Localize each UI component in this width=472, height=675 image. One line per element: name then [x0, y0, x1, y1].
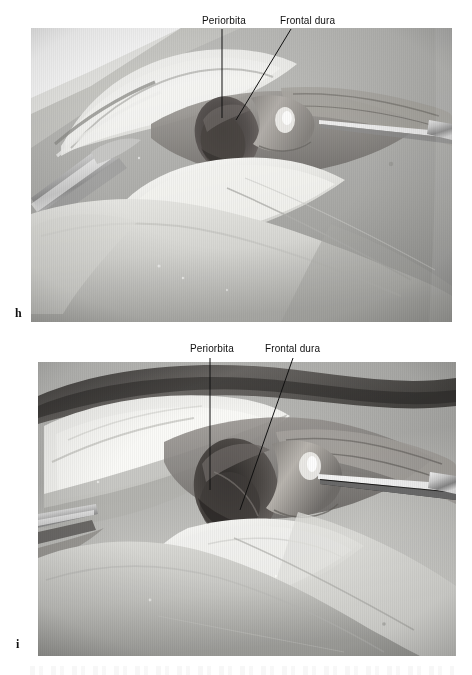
annotation-label-frontal-dura-h: Frontal dura: [280, 15, 335, 26]
panel-letter-i: i: [16, 638, 19, 650]
panel-h-vignette: [31, 28, 452, 322]
panel-i-photograph: [38, 362, 456, 656]
caption-remnant: [30, 666, 454, 675]
figure-panel-h: Periorbita Frontal dura h: [0, 0, 472, 335]
annotation-label-periorbita-h: Periorbita: [202, 15, 246, 26]
panel-letter-h: h: [15, 307, 22, 319]
panel-h-photograph: [31, 28, 452, 322]
annotation-label-periorbita-i: Periorbita: [190, 343, 234, 354]
figure-panel-i: Periorbita Frontal dura i: [0, 335, 472, 674]
annotation-label-frontal-dura-i: Frontal dura: [265, 343, 320, 354]
panel-i-vignette: [38, 362, 456, 656]
